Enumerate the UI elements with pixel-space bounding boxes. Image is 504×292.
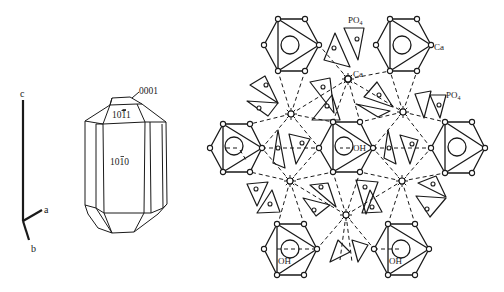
ca-site	[340, 209, 352, 221]
b-axis-line	[23, 221, 29, 240]
face-label-0001: 0001	[139, 86, 158, 96]
b-axis-label: b	[31, 243, 36, 254]
hexagonal-channels	[207, 16, 487, 277]
po4-tetrahedron	[356, 104, 390, 117]
po4-tetrahedron	[289, 134, 310, 164]
po4-tetrahedron	[303, 198, 330, 216]
po4-tetrahedron	[273, 130, 285, 168]
po4-tetrahedron	[352, 240, 368, 262]
po4-tetrahedron	[344, 28, 364, 60]
ca-site	[396, 175, 408, 187]
po4-tetrahedron	[364, 82, 393, 107]
po4-tetrahedron	[257, 190, 280, 213]
po4-tetrahedron	[324, 33, 350, 67]
po4-tetrahedron	[247, 101, 278, 116]
a-axis-line	[23, 210, 42, 221]
hexagon-channel-bottom-left	[261, 221, 319, 277]
po4-tetrahedron	[250, 76, 278, 103]
hexagon-channel-top-right	[373, 16, 433, 73]
a-axis-label: a	[44, 204, 49, 215]
ca-site	[284, 175, 296, 187]
apatite-crystal-structure-figure: c a b 0001 1011 1010	[0, 0, 504, 292]
po4-tetrahedron	[430, 95, 446, 118]
hexagon-channel-mid-center	[316, 119, 375, 174]
face-label-pyramid: 1011	[112, 110, 131, 120]
crystal-habit: 0001 1011 1010	[85, 86, 167, 233]
ca-site	[397, 106, 409, 118]
hexagon-channel-mid-right	[428, 119, 487, 175]
po4-label-top: PO4	[348, 15, 363, 26]
oh-label-mid: OH	[353, 143, 366, 153]
oh-label-bottom-right: OH	[389, 256, 402, 266]
po4-tetrahedron	[418, 176, 446, 197]
crystal-axes: c a b	[20, 88, 49, 254]
c-axis-label: c	[20, 88, 25, 99]
ca-label-hexagon: Ca	[434, 42, 444, 52]
face-label-prism: 1010	[110, 157, 129, 167]
ca-label-site: Ca	[353, 69, 363, 79]
hexagon-channel-bottom-right	[371, 221, 431, 277]
crystal-structure-projection: PO4 Ca Ca PO4 OH OH OH	[207, 15, 487, 278]
po4-label-right: PO4	[446, 90, 461, 101]
po4-tetrahedron	[247, 182, 268, 206]
ca-site	[285, 108, 297, 120]
hexagon-channel-top-left	[261, 16, 321, 73]
po4-tetrahedron	[415, 91, 431, 118]
oh-label-bottom-left: OH	[278, 256, 291, 266]
po4-tetrahedron	[400, 135, 418, 164]
po4-tetrahedron	[384, 130, 396, 164]
po4-tetrahedron	[416, 196, 446, 217]
